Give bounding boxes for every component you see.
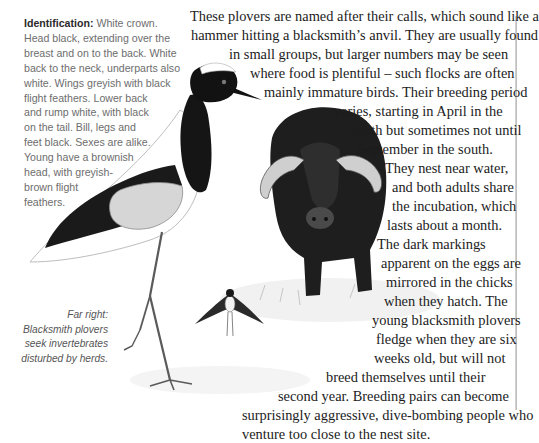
body-line: when they hatch. The xyxy=(384,292,508,310)
body-line: These plovers are named after their call… xyxy=(190,7,539,25)
body-line: venture too close to the nest site. xyxy=(242,425,430,443)
body-line: weeks old, but will not xyxy=(374,349,506,367)
body-line: varies, starting in April in the xyxy=(334,102,503,120)
body-line: The dark markings xyxy=(377,235,486,253)
body-line: hammer hitting a blacksmith’s anvil. The… xyxy=(191,26,538,44)
body-line: They nest near water, xyxy=(385,159,508,177)
body-line: apparent on the eggs are xyxy=(381,254,521,272)
body-line: surprisingly aggressive, dive-bombing pe… xyxy=(242,406,533,424)
body-line: fledge when they are six xyxy=(376,330,517,348)
body-line: and both adults share xyxy=(392,178,514,196)
body-line: the incubation, which xyxy=(392,197,516,215)
body-line: north but sometimes not until xyxy=(352,121,521,139)
body-line: September in the south. xyxy=(357,140,493,158)
body-line: young blacksmith plovers xyxy=(372,311,521,329)
body-line: mirrored in the chicks xyxy=(386,273,513,291)
body-line: breed themselves until their xyxy=(326,368,485,386)
body-line: where food is plentiful – such flocks ar… xyxy=(250,64,515,82)
body-line: in small groups, but larger numbers may … xyxy=(229,45,508,63)
body-line: second year. Breeding pairs can become xyxy=(278,387,509,405)
body-line: mainly immature birds. Their breeding pe… xyxy=(264,83,528,101)
body-line: lasts about a month. xyxy=(387,216,502,234)
